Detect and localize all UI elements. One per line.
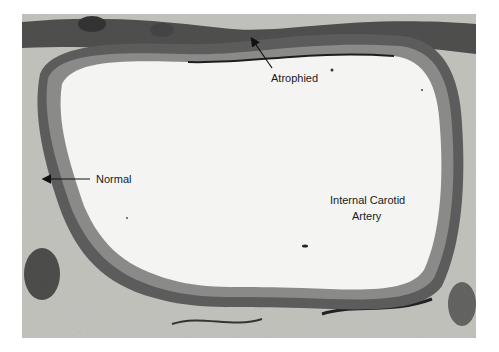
normal-label: Normal bbox=[96, 173, 131, 186]
vessel-label-line1: Internal Carotid bbox=[330, 194, 405, 207]
annotation-arrows bbox=[0, 0, 499, 352]
atrophied-label: Atrophied bbox=[271, 72, 318, 85]
atrophied-arrow bbox=[252, 39, 272, 68]
histology-figure: Atrophied Normal Internal Carotid Artery bbox=[0, 0, 499, 352]
vessel-label-line2: Artery bbox=[352, 210, 381, 223]
